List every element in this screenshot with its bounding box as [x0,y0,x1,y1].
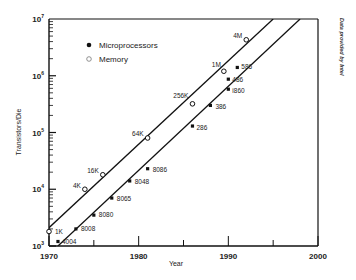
x-tick-label: 1990 [219,252,237,261]
data-points: 400480088080806580488086286386i860486586… [47,32,253,245]
legend-label-memory: Memory [99,55,128,64]
y-axis-tick-labels: 103104105106107 [32,13,44,251]
y-axis-ticks [49,22,56,246]
trend-lines [49,19,300,246]
x-axis-tick-labels: 1970198019902000 [40,252,327,261]
y-tick-label: 107 [32,13,44,24]
point-label: 286 [196,124,207,131]
point-label: 486 [232,76,243,83]
memory-point [145,136,150,141]
memory-point [222,69,227,74]
legend-open-marker-icon [87,57,92,62]
point-label: 8080 [99,211,114,218]
x-tick-label: 2000 [309,252,327,261]
chart-canvas: 103104105106107 1970198019902000 Year Tr… [0,0,356,280]
microprocessor-point [56,240,59,243]
legend: Microprocessors Memory [87,41,158,64]
point-label: 1K [55,228,64,235]
microprocessor-point [227,78,230,81]
point-label: 1M [212,61,221,68]
memory-point [101,172,106,177]
point-label: 4004 [62,238,77,245]
point-label: 16K [87,167,99,174]
point-label: 4M [233,32,242,39]
y-tick-label: 103 [32,240,44,251]
microprocessor-point [92,214,95,217]
x-tick-label: 1980 [130,252,148,261]
point-label: 8086 [153,166,168,173]
legend-filled-marker-icon [87,43,92,48]
credit-text: Data provided by Intel [339,18,345,76]
point-label: 586 [241,63,252,70]
y-axis-title: Transistors/Die [15,108,22,155]
microprocessor-point [209,104,212,107]
x-axis-title: Year [169,260,184,267]
point-label: 8065 [117,195,132,202]
x-tick-label: 1970 [40,252,58,261]
point-label: 4K [73,182,82,189]
x-axis-ticks [49,236,318,246]
memory-point [190,102,195,107]
memory-point [83,187,88,192]
y-tick-label: 104 [32,183,44,194]
microprocessor-point [236,66,239,69]
legend-label-microprocessors: Microprocessors [99,41,158,50]
y-tick-label: 105 [32,127,44,138]
trend-line [49,19,273,228]
point-label: 256K [173,92,189,99]
microprocessor-point [191,124,194,127]
point-label: 386 [215,103,226,110]
microprocessor-point [128,179,131,182]
y-tick-label: 106 [32,70,44,81]
point-label: 64K [132,130,144,137]
microprocessor-point [227,88,230,91]
memory-point [47,229,52,234]
microprocessor-point [110,196,113,199]
plot-frame [49,19,318,246]
trend-line [58,19,300,246]
microprocessor-point [146,167,149,170]
point-label: i860 [232,87,245,94]
point-label: 8048 [135,178,150,185]
point-label: 8008 [81,225,96,232]
microprocessor-point [74,227,77,230]
memory-point [244,38,249,43]
